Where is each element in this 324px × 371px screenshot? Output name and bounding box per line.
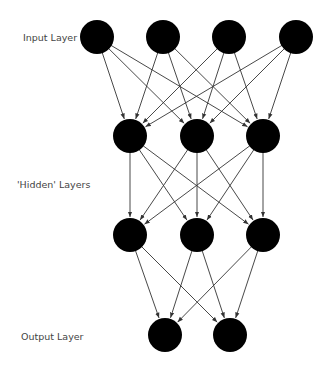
input-node-2 bbox=[146, 20, 180, 54]
edge-arrow bbox=[143, 48, 219, 124]
neural-network-diagram: Input Layer 'Hidden' Layers Output Layer bbox=[0, 0, 324, 371]
input-node-3 bbox=[212, 20, 246, 54]
edge-arrow bbox=[108, 48, 185, 124]
output-node-2 bbox=[213, 318, 247, 352]
network-graph bbox=[0, 0, 324, 371]
hidden1-node-2 bbox=[180, 119, 214, 153]
input-node-4 bbox=[279, 20, 313, 54]
edge-arrow bbox=[234, 51, 257, 119]
hidden2-node-2 bbox=[180, 218, 214, 252]
edge-arrow bbox=[102, 51, 125, 119]
edge-arrow bbox=[210, 48, 286, 124]
hidden2-node-1 bbox=[113, 218, 147, 252]
edge-arrow bbox=[136, 51, 159, 119]
hidden2-node-3 bbox=[246, 218, 280, 252]
edge-arrow bbox=[178, 246, 253, 322]
hidden1-node-1 bbox=[113, 119, 147, 153]
edge-arrow bbox=[170, 249, 192, 318]
edge-arrow bbox=[135, 249, 159, 318]
edge-arrow bbox=[207, 148, 255, 220]
edge-arrow bbox=[110, 45, 248, 127]
output-node-1 bbox=[148, 318, 182, 352]
edge-arrow bbox=[138, 148, 187, 220]
edge-arrow bbox=[142, 145, 249, 224]
edge-arrow bbox=[203, 51, 225, 119]
edge-arrow bbox=[202, 249, 225, 318]
hidden1-node-3 bbox=[246, 119, 280, 153]
input-node-1 bbox=[80, 20, 114, 54]
edge-arrow bbox=[174, 48, 251, 124]
edge-arrow bbox=[141, 246, 218, 323]
edges bbox=[102, 45, 292, 323]
edge-arrow bbox=[144, 145, 251, 224]
edge-arrow bbox=[145, 45, 283, 127]
